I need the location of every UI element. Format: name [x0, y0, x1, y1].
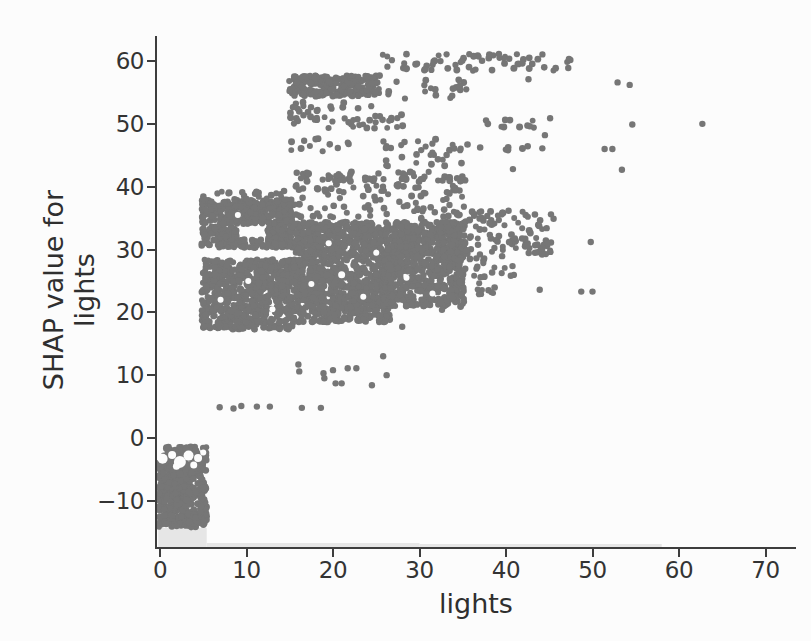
y-tick-label: −10	[76, 487, 144, 515]
y-tick-mark	[147, 186, 155, 188]
x-tick-label: 50	[563, 557, 623, 583]
x-tick-mark	[592, 549, 594, 557]
y-tick-label: 0	[76, 424, 144, 452]
y-tick-mark	[147, 123, 155, 125]
y-tick-mark	[147, 60, 155, 62]
y-axis-title: SHAP value for lights	[38, 170, 102, 410]
shap-dependence-plot: 010203040506070 −100102030405060 lights …	[0, 0, 811, 641]
scatter-plot-canvas	[157, 34, 795, 547]
y-tick-mark	[147, 249, 155, 251]
y-tick-mark	[147, 500, 155, 502]
y-tick-mark	[147, 437, 155, 439]
y-axis-spine	[155, 36, 157, 549]
y-axis-title-line-1: SHAP value for	[38, 170, 69, 410]
x-tick-label: 10	[217, 557, 277, 583]
y-tick-label: 50	[76, 110, 144, 138]
x-tick-mark	[765, 549, 767, 557]
y-tick-mark	[147, 374, 155, 376]
x-tick-mark	[246, 549, 248, 557]
x-axis-title: lights	[326, 588, 626, 619]
y-axis-title-line-2: lights	[69, 170, 100, 410]
y-tick-label: 60	[76, 47, 144, 75]
x-tick-label: 0	[130, 557, 190, 583]
x-tick-mark	[419, 549, 421, 557]
y-tick-mark	[147, 311, 155, 313]
x-tick-label: 30	[390, 557, 450, 583]
x-tick-mark	[332, 549, 334, 557]
x-tick-label: 20	[303, 557, 363, 583]
x-tick-label: 70	[736, 557, 796, 583]
x-tick-mark	[505, 549, 507, 557]
x-tick-mark	[678, 549, 680, 557]
x-axis-spine	[155, 547, 796, 549]
x-tick-mark	[159, 549, 161, 557]
x-tick-label: 40	[476, 557, 536, 583]
x-tick-label: 60	[649, 557, 709, 583]
